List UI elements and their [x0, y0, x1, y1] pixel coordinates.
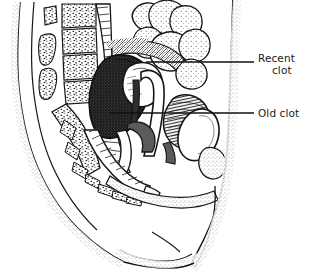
callout-label-old-clot: Old clot: [258, 107, 299, 119]
symphysis-pubis: [199, 147, 226, 179]
callout-recent-clot-line2: clot: [258, 64, 295, 76]
callout-recent-clot-line1: Recent: [258, 52, 295, 64]
illustration-canvas: [0, 0, 309, 280]
pelvic-clot-illustration: Recent clot Old clot: [0, 0, 309, 280]
callout-old-clot-line1: Old clot: [258, 107, 299, 119]
callout-label-recent-clot: Recent clot: [258, 52, 295, 76]
